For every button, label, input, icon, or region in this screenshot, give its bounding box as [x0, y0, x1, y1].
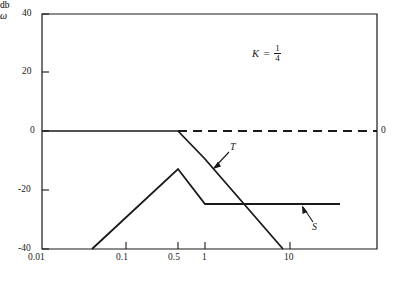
- x-tick-label-0-5: 0.5: [168, 252, 180, 262]
- x-tick-label-0-01: 0.01: [28, 252, 45, 262]
- x-tick-label-10: 10: [284, 252, 294, 262]
- annotation-fraction: 1 4: [274, 44, 281, 64]
- x-tick-label-1: 1: [202, 252, 207, 262]
- curve-s-leader-arrow: [302, 206, 313, 223]
- y-tick-label-20: 20: [22, 66, 32, 76]
- annotation-gain-k: K = 1 4: [252, 45, 281, 65]
- y-tick-label-40: 40: [22, 8, 32, 18]
- curve-label-s: S: [312, 221, 317, 232]
- annotation-equals: =: [264, 48, 270, 59]
- curve-t-leader-arrow: [213, 152, 229, 169]
- annotation-denominator: 4: [274, 53, 281, 63]
- figure-container: 40 20 0 -20 -40 db 0.01 0.1 0.5 1 10 ω 0…: [0, 0, 397, 284]
- x-tick-label-0-1: 0.1: [116, 252, 128, 262]
- right-zero-label: 0: [381, 125, 386, 135]
- y-tick-label-0: 0: [30, 125, 35, 135]
- annotation-numerator: 1: [274, 44, 281, 53]
- x-axis-ticks: [126, 242, 290, 249]
- bode-plot-svg: [0, 0, 397, 284]
- annotation-k-symbol: K: [252, 48, 259, 59]
- y-tick-label-minus-20: -20: [18, 184, 31, 194]
- curve-label-t: T: [230, 141, 236, 152]
